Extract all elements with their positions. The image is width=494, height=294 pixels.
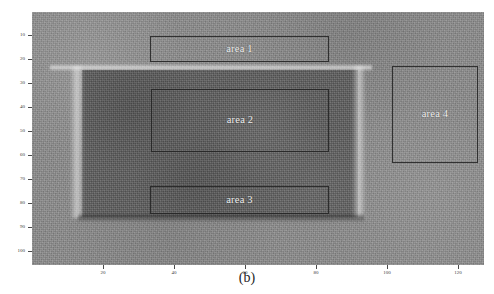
y-tick-mark bbox=[28, 155, 32, 156]
roi-box-area-3[interactable]: area 3 bbox=[150, 186, 329, 214]
y-tick-mark bbox=[28, 203, 32, 204]
y-tick-mark bbox=[28, 59, 32, 60]
x-tick-mark bbox=[103, 265, 104, 269]
x-tick-mark bbox=[316, 265, 317, 269]
y-tick-mark bbox=[28, 83, 32, 84]
roi-box-area-4[interactable]: area 4 bbox=[392, 66, 478, 163]
roi-box-area-1[interactable]: area 1 bbox=[150, 36, 329, 62]
x-tick-mark bbox=[245, 265, 246, 269]
y-tick-label: 100 bbox=[5, 248, 25, 253]
y-tick-mark bbox=[28, 227, 32, 228]
y-tick-label: 80 bbox=[5, 200, 25, 205]
roi-label-area-1: area 1 bbox=[226, 44, 253, 55]
y-tick-mark bbox=[28, 107, 32, 108]
y-tick-label: 30 bbox=[5, 80, 25, 85]
x-tick-mark bbox=[387, 265, 388, 269]
figure-panel-b: area 1 area 2 area 3 area 4 10 20 30 40 … bbox=[0, 0, 494, 294]
roi-label-area-4: area 4 bbox=[422, 109, 449, 120]
x-tick-mark bbox=[174, 265, 175, 269]
roi-box-area-2[interactable]: area 2 bbox=[151, 89, 329, 152]
y-tick-label: 20 bbox=[5, 56, 25, 61]
y-tick-mark bbox=[28, 131, 32, 132]
y-tick-label: 40 bbox=[5, 104, 25, 109]
y-tick-label: 90 bbox=[5, 224, 25, 229]
x-tick-mark bbox=[458, 265, 459, 269]
y-tick-mark bbox=[28, 251, 32, 252]
y-tick-label: 60 bbox=[5, 152, 25, 157]
y-tick-label: 50 bbox=[5, 128, 25, 133]
roi-label-area-2: area 2 bbox=[227, 115, 254, 126]
figure-caption: (b) bbox=[0, 270, 494, 286]
scan-image-plot: area 1 area 2 area 3 area 4 bbox=[32, 12, 484, 265]
y-tick-mark bbox=[28, 179, 32, 180]
roi-label-area-3: area 3 bbox=[226, 195, 253, 206]
y-tick-label: 10 bbox=[5, 32, 25, 37]
y-tick-label: 70 bbox=[5, 176, 25, 181]
y-tick-mark bbox=[28, 35, 32, 36]
